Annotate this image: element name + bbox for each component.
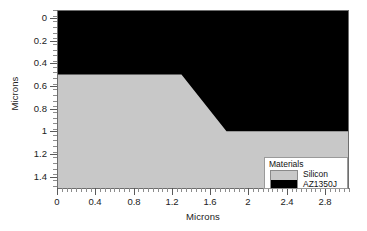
- legend-entry-silicon: Silicon: [303, 169, 337, 179]
- x-tick-minor: [148, 188, 149, 192]
- x-tick-major: [95, 188, 96, 195]
- y-tick-label: 0.2: [7, 35, 47, 46]
- y-tick-minor: [53, 186, 57, 187]
- y-tick-minor: [53, 10, 57, 11]
- y-tick-major: [50, 109, 57, 110]
- y-tick-major: [50, 154, 57, 155]
- x-tick-minor: [91, 188, 92, 192]
- axis-spine-left: [57, 10, 58, 189]
- y-tick-major: [50, 18, 57, 19]
- x-tick-minor: [205, 188, 206, 192]
- x-tick-minor: [76, 188, 77, 192]
- x-tick-label: 1.6: [190, 196, 230, 207]
- x-tick-major: [172, 188, 173, 195]
- axis-spine-top: [57, 10, 349, 11]
- x-tick-minor: [67, 188, 68, 192]
- y-tick-minor: [53, 112, 57, 113]
- x-tick-major: [57, 188, 58, 195]
- y-tick-minor: [53, 27, 57, 28]
- x-tick-minor: [220, 188, 221, 192]
- y-tick-minor: [53, 84, 57, 85]
- y-tick-minor: [53, 78, 57, 79]
- y-tick-minor: [53, 140, 57, 141]
- x-tick-major: [325, 188, 326, 195]
- y-tick-major: [50, 41, 57, 42]
- y-axis-title: Microns: [9, 59, 20, 129]
- legend-swatch-az1350j: [271, 180, 297, 189]
- x-tick-minor: [239, 188, 240, 192]
- y-tick-label: 0.4: [7, 57, 47, 68]
- x-tick-minor: [71, 188, 72, 192]
- x-tick-minor: [177, 188, 178, 192]
- x-tick-minor: [143, 188, 144, 192]
- x-tick-major: [210, 188, 211, 195]
- x-tick-minor: [244, 188, 245, 192]
- y-tick-minor: [53, 118, 57, 119]
- legend-entries: Silicon AZ1350J: [303, 169, 337, 189]
- x-tick-minor: [119, 188, 120, 192]
- y-tick-minor: [53, 50, 57, 51]
- y-tick-minor: [53, 72, 57, 73]
- legend-swatch-silicon: [271, 171, 297, 180]
- x-tick-minor: [129, 188, 130, 192]
- x-tick-minor: [196, 188, 197, 192]
- legend-title: Materials: [269, 159, 347, 169]
- y-tick-minor: [53, 95, 57, 96]
- x-tick-minor: [100, 188, 101, 192]
- x-tick-minor: [225, 188, 226, 192]
- legend: Materials Silicon AZ1350J: [264, 157, 348, 189]
- x-tick-label: 0.8: [114, 196, 154, 207]
- y-tick-major: [50, 86, 57, 87]
- x-tick-major: [248, 188, 249, 195]
- y-tick-minor: [53, 174, 57, 175]
- x-tick-minor: [162, 188, 163, 192]
- y-tick-minor: [53, 101, 57, 102]
- x-tick-label: 2.8: [305, 196, 345, 207]
- y-tick-minor: [53, 61, 57, 62]
- x-tick-minor: [191, 188, 192, 192]
- x-tick-minor: [105, 188, 106, 192]
- x-tick-minor: [124, 188, 125, 192]
- x-tick-minor: [229, 188, 230, 192]
- y-tick-minor: [53, 89, 57, 90]
- x-tick-minor: [181, 188, 182, 192]
- legend-body: Silicon AZ1350J: [269, 169, 347, 189]
- y-tick-minor: [53, 67, 57, 68]
- x-tick-minor: [349, 188, 350, 192]
- y-tick-minor: [53, 169, 57, 170]
- x-tick-minor: [258, 188, 259, 192]
- y-tick-minor: [53, 16, 57, 17]
- x-tick-minor: [81, 188, 82, 192]
- y-tick-minor: [53, 180, 57, 181]
- x-tick-label: 2.4: [267, 196, 307, 207]
- y-tick-label: 1.4: [7, 171, 47, 182]
- legend-swatch: [270, 170, 298, 189]
- x-tick-minor: [110, 188, 111, 192]
- y-tick-minor: [53, 163, 57, 164]
- y-tick-label: 0: [7, 12, 47, 23]
- y-tick-minor: [53, 129, 57, 130]
- y-tick-major: [50, 131, 57, 132]
- x-tick-label: 1.2: [152, 196, 192, 207]
- y-tick-label: 0.8: [7, 103, 47, 114]
- axis-spine-right: [348, 10, 349, 189]
- y-tick-major: [50, 63, 57, 64]
- x-tick-minor: [201, 188, 202, 192]
- y-tick-minor: [53, 152, 57, 153]
- y-tick-minor: [53, 21, 57, 22]
- y-tick-minor: [53, 157, 57, 158]
- x-tick-minor: [138, 188, 139, 192]
- x-tick-minor: [215, 188, 216, 192]
- y-tick-major: [50, 177, 57, 178]
- y-tick-minor: [53, 135, 57, 136]
- x-tick-label: 2: [228, 196, 268, 207]
- x-tick-minor: [234, 188, 235, 192]
- x-tick-minor: [86, 188, 87, 192]
- x-tick-minor: [253, 188, 254, 192]
- x-axis-title: Microns: [57, 211, 349, 222]
- y-tick-minor: [53, 55, 57, 56]
- materials-cross-section-figure: Microns 00.40.81.21.622.42.800.20.40.60.…: [0, 0, 367, 231]
- x-tick-minor: [167, 188, 168, 192]
- y-tick-minor: [53, 44, 57, 45]
- y-tick-minor: [53, 38, 57, 39]
